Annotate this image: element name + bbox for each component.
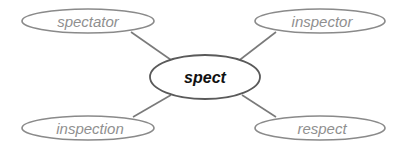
connector-bottom-right <box>242 95 276 117</box>
node-label: respect <box>297 120 347 137</box>
connector-top-right <box>237 32 276 62</box>
node-inspector: inspector <box>255 9 385 33</box>
node-label: inspector <box>292 13 354 30</box>
word-web-diagram: spectator inspector inspection respect s… <box>0 0 401 151</box>
center-label: spect <box>184 69 226 86</box>
node-label: inspection <box>56 120 124 137</box>
connector-top-left <box>131 32 174 62</box>
node-respect: respect <box>255 116 385 140</box>
connector-bottom-left <box>133 95 171 117</box>
node-label: spectator <box>57 13 120 30</box>
center-node: spect <box>150 55 260 99</box>
node-spectator: spectator <box>22 9 154 33</box>
node-inspection: inspection <box>22 116 154 140</box>
